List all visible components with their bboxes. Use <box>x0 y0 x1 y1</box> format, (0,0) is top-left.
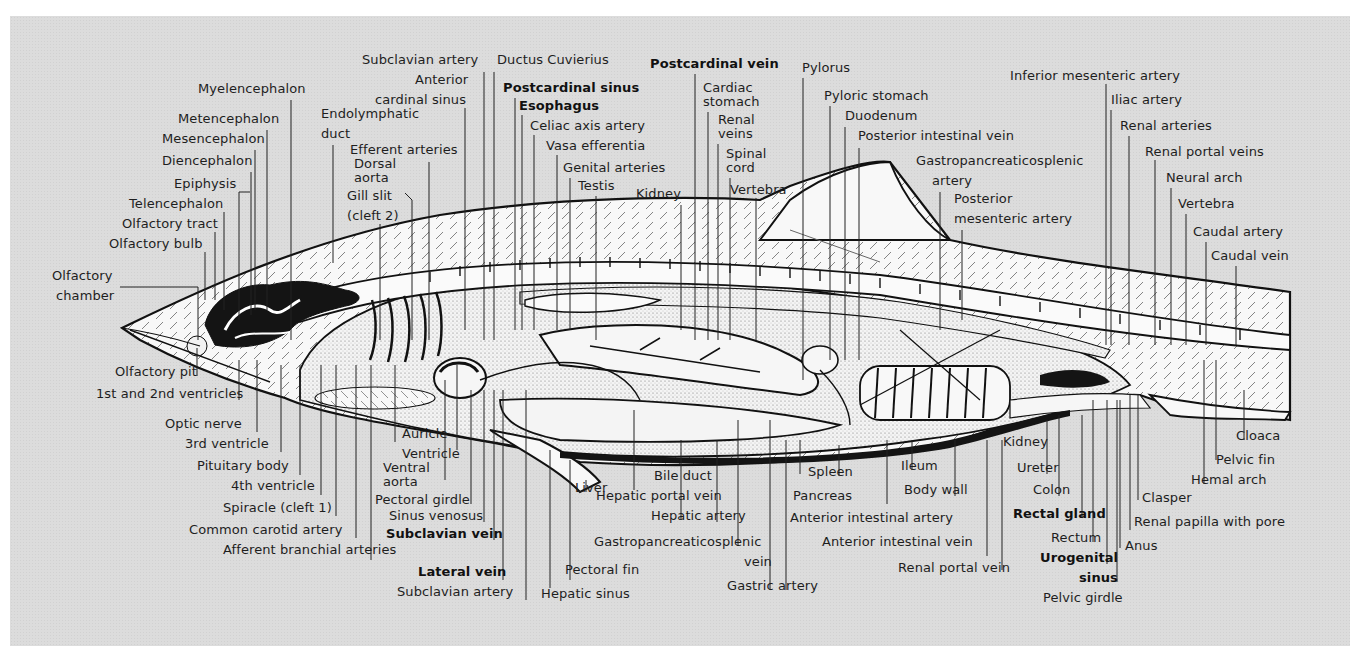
label-clasper: Clasper <box>1142 491 1192 505</box>
label-ventral-aorta-2: aorta <box>383 475 418 489</box>
label-subclavian-artery-top: Subclavian artery <box>362 53 478 67</box>
label-renal-arteries: Renal arteries <box>1120 119 1212 133</box>
label-pylorus: Pylorus <box>802 61 850 75</box>
label-dorsal-aorta-2: aorta <box>354 171 389 185</box>
label-endolymphatic-duct-2: duct <box>321 127 350 141</box>
label-anterior-intestinal-vein: Anterior intestinal vein <box>822 535 973 549</box>
label-epiphysis: Epiphysis <box>174 177 236 191</box>
label-telencephalon: Telencephalon <box>129 197 223 211</box>
label-pectoral-fin: Pectoral fin <box>565 563 639 577</box>
label-esophagus: Esophagus <box>519 99 599 113</box>
label-pituitary-body: Pituitary body <box>197 459 289 473</box>
label-celiac-axis-artery: Celiac axis artery <box>530 119 645 133</box>
label-kidney-bottom: Kidney <box>1003 435 1048 449</box>
label-efferent-arteries: Efferent arteries <box>350 143 458 157</box>
label-inferior-mesenteric-artery: Inferior mesenteric artery <box>1010 69 1180 83</box>
label-anterior-cardinal-sinus-1: Anterior <box>415 73 468 87</box>
label-genital-arteries: Genital arteries <box>563 161 665 175</box>
label-spleen: Spleen <box>808 465 853 479</box>
label-testis: Testis <box>578 179 615 193</box>
label-olfactory-tract: Olfactory tract <box>122 217 218 231</box>
label-pyloric-stomach: Pyloric stomach <box>824 89 929 103</box>
label-mesencephalon: Mesencephalon <box>162 132 265 146</box>
label-posterior-mesenteric-artery-1: Posterior <box>954 192 1012 206</box>
label-postcardinal-sinus: Postcardinal sinus <box>503 81 639 95</box>
label-subclavian-vein: Subclavian vein <box>386 527 503 541</box>
label-ventricle: Ventricle <box>402 447 460 461</box>
label-hepatic-artery: Hepatic artery <box>651 509 746 523</box>
label-ductus-cuvierius: Ductus Cuvierius <box>497 53 609 67</box>
label-myelencephalon: Myelencephalon <box>198 82 306 96</box>
label-postcardinal-vein: Postcardinal vein <box>650 57 779 71</box>
label-fourth-ventricle: 4th ventricle <box>231 479 315 493</box>
label-sinus-venosus: Sinus venosus <box>389 509 483 523</box>
leader-line <box>405 193 412 200</box>
label-ureter: Ureter <box>1017 461 1059 475</box>
label-caudal-artery: Caudal artery <box>1193 225 1283 239</box>
label-diencephalon: Diencephalon <box>162 154 252 168</box>
label-lateral-vein: Lateral vein <box>418 565 506 579</box>
label-renal-veins-1: Renal <box>718 113 755 127</box>
label-rectal-gland: Rectal gland <box>1013 507 1106 521</box>
label-renal-portal-veins: Renal portal veins <box>1145 145 1264 159</box>
label-posterior-mesenteric-artery-2: mesenteric artery <box>954 212 1072 226</box>
label-metencephalon: Metencephalon <box>178 112 279 126</box>
label-spinal-cord-2: cord <box>726 161 755 175</box>
label-rectum: Rectum <box>1051 531 1101 545</box>
label-olfactory-chamber-2: chamber <box>56 289 114 303</box>
label-pelvic-fin: Pelvic fin <box>1216 453 1275 467</box>
label-body-wall: Body wall <box>904 483 968 497</box>
label-gastropancreaticosplenic-vein-1: Gastropancreaticosplenic <box>594 535 761 549</box>
label-colon: Colon <box>1033 483 1070 497</box>
label-cardiac-stomach-2: stomach <box>703 95 760 109</box>
label-auricle: Auricle <box>402 427 448 441</box>
label-kidney-top: Kidney <box>636 187 681 201</box>
label-bile-duct: Bile duct <box>654 469 712 483</box>
label-ventricles-1-2: 1st and 2nd ventricles <box>96 387 243 401</box>
label-olfactory-pit: Olfactory pit <box>115 365 197 379</box>
label-third-ventricle: 3rd ventricle <box>185 437 269 451</box>
label-spinal-cord-1: Spinal <box>726 147 767 161</box>
label-renal-veins-2: veins <box>718 127 753 141</box>
label-spiracle: Spiracle (cleft 1) <box>223 501 332 515</box>
label-ileum: Ileum <box>901 459 938 473</box>
label-vertebra-top: Vertebra <box>730 183 787 197</box>
label-gastropancreaticosplenic-artery-1: Gastropancreaticosplenic <box>916 154 1083 168</box>
label-urogenital-sinus-1: Urogenital <box>1040 551 1118 565</box>
label-optic-nerve: Optic nerve <box>165 417 242 431</box>
label-common-carotid-artery: Common carotid artery <box>189 523 342 537</box>
hypobranchial-muscle <box>315 387 435 409</box>
label-gill-slit-2: (cleft 2) <box>347 209 399 223</box>
label-dorsal-aorta-1: Dorsal <box>354 157 396 171</box>
label-hemal-arch: Hemal arch <box>1191 473 1267 487</box>
label-gill-slit-1: Gill slit <box>347 189 392 203</box>
label-gastropancreaticosplenic-vein-2: vein <box>744 555 772 569</box>
label-gastric-artery: Gastric artery <box>727 579 818 593</box>
label-ventral-aorta-1: Ventral <box>383 461 430 475</box>
label-iliac-artery: Iliac artery <box>1111 93 1182 107</box>
dorsal-fin <box>760 162 950 240</box>
label-neural-arch: Neural arch <box>1166 171 1243 185</box>
cloaca-region <box>1010 394 1150 418</box>
label-duodenum: Duodenum <box>845 109 917 123</box>
label-posterior-intestinal-vein: Posterior intestinal vein <box>858 129 1014 143</box>
label-urogenital-sinus-2: sinus <box>1079 571 1118 585</box>
label-hepatic-sinus: Hepatic sinus <box>541 587 630 601</box>
label-caudal-vein: Caudal vein <box>1211 249 1289 263</box>
label-endolymphatic-duct-1: Endolymphatic <box>321 107 419 121</box>
label-pelvic-girdle: Pelvic girdle <box>1043 591 1123 605</box>
label-anterior-intestinal-artery: Anterior intestinal artery <box>790 511 953 525</box>
label-anterior-cardinal-sinus-2: cardinal sinus <box>375 93 466 107</box>
label-olfactory-chamber-1: Olfactory <box>52 269 113 283</box>
label-subclavian-artery-bottom: Subclavian artery <box>397 585 513 599</box>
label-pancreas: Pancreas <box>793 489 852 503</box>
spleen <box>802 346 838 374</box>
label-anus: Anus <box>1125 539 1158 553</box>
label-hepatic-portal-vein: Hepatic portal vein <box>596 489 722 503</box>
label-olfactory-bulb: Olfactory bulb <box>109 237 203 251</box>
label-cardiac-stomach-1: Cardiac <box>703 81 753 95</box>
label-cloaca: Cloaca <box>1236 429 1280 443</box>
label-vasa-efferentia: Vasa efferentia <box>546 139 645 153</box>
label-renal-papilla: Renal papilla with pore <box>1134 515 1285 529</box>
label-afferent-branchial-arteries: Afferent branchial arteries <box>223 543 396 557</box>
